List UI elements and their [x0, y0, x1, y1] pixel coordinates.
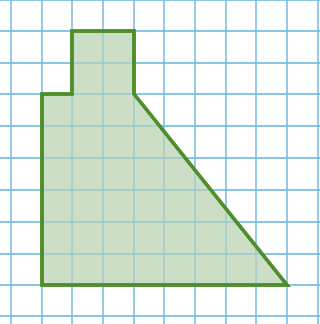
grid-diagram — [0, 0, 320, 324]
grid-figure — [0, 0, 320, 324]
